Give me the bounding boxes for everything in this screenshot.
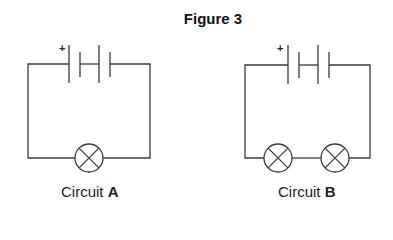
circuit-b-lamp-2-icon xyxy=(321,144,349,172)
circuit-a-positive-marker: + xyxy=(59,42,65,54)
circuit-a-label-prefix: Circuit xyxy=(61,183,108,200)
circuit-a-label-letter: A xyxy=(108,183,119,200)
circuit-b xyxy=(245,45,370,172)
circuit-b-label-letter: B xyxy=(325,183,336,200)
circuit-b-label: Circuit B xyxy=(278,183,336,200)
circuit-b-label-prefix: Circuit xyxy=(278,183,325,200)
circuit-a xyxy=(28,45,150,172)
circuit-b-wires xyxy=(245,65,370,158)
circuit-a-label: Circuit A xyxy=(61,183,119,200)
circuit-a-lamp-icon xyxy=(75,144,103,172)
circuit-b-lamp-1-icon xyxy=(264,144,292,172)
circuit-b-positive-marker: + xyxy=(277,42,283,54)
